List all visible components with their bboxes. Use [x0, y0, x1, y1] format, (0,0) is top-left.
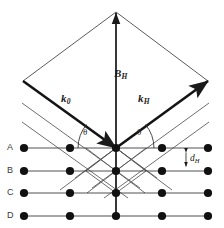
atom — [66, 167, 74, 175]
atom — [204, 144, 212, 152]
atom — [20, 167, 28, 175]
plane-label-c: C — [7, 188, 14, 197]
kh-vector-arrow — [116, 81, 208, 148]
atom — [204, 167, 212, 175]
atom — [20, 189, 28, 197]
incident-ray-bundle — [22, 81, 140, 198]
atom — [112, 144, 120, 152]
plane-label-a: A — [7, 143, 13, 152]
atom — [112, 167, 120, 175]
kh-symbol: k — [138, 92, 144, 104]
diamond-upper-right — [116, 12, 208, 81]
atom — [204, 189, 212, 197]
bh-vector-label: BH — [114, 68, 127, 80]
plane-label-d: D — [7, 211, 14, 220]
atom — [158, 144, 166, 152]
transmitted-ray-ll — [75, 148, 116, 178]
diffracted-ray-2 — [92, 103, 209, 188]
theta-right-label: θ — [137, 128, 141, 137]
theta-left-label: θ — [83, 128, 87, 137]
theta-arc-right — [146, 125, 155, 149]
atom — [158, 167, 166, 175]
atom — [20, 144, 28, 152]
atom — [204, 212, 212, 220]
atom — [20, 212, 28, 220]
atom — [66, 144, 74, 152]
dh-subscript: H — [195, 157, 200, 164]
k0-vector-label: k0 — [61, 93, 70, 105]
diamond-upper-left — [23, 12, 116, 81]
k0-subscript: 0 — [67, 97, 71, 106]
transmitted-ray-rr — [116, 148, 157, 178]
atom — [112, 189, 120, 197]
diagram-canvas — [0, 0, 224, 228]
bh-subscript: H — [122, 72, 128, 81]
incident-ray-3 — [22, 122, 128, 198]
kh-subscript: H — [144, 97, 150, 106]
atom — [112, 212, 120, 220]
plane-label-b: B — [7, 166, 13, 175]
diffracted-ray-bundle — [92, 81, 209, 198]
atom — [158, 212, 166, 220]
atom — [66, 212, 74, 220]
atom — [66, 189, 74, 197]
k0-symbol: k — [61, 92, 67, 104]
bragg-diffraction-figure: BH k0 kH θ θ dH A B C D — [0, 0, 224, 228]
kh-vector-label: kH — [138, 93, 150, 105]
dh-spacing-label: dH — [190, 154, 199, 164]
bh-symbol: B — [114, 67, 121, 79]
k0-vector-arrow — [23, 81, 116, 148]
atom — [158, 189, 166, 197]
